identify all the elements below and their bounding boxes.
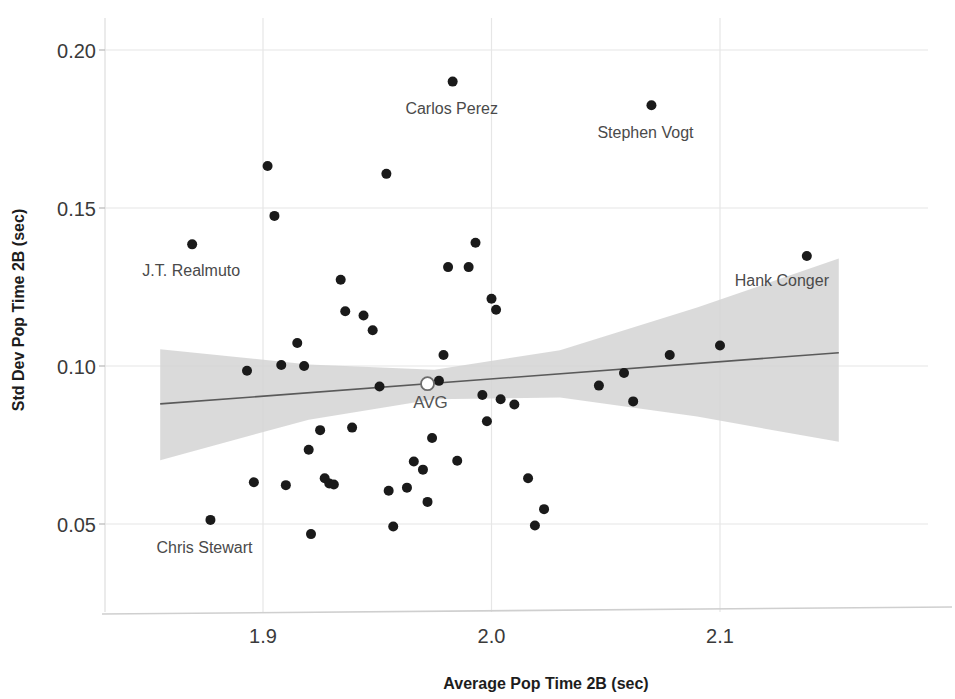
avg-marker-label: AVG xyxy=(413,393,448,412)
x-axis-title: Average Pop Time 2B (sec) xyxy=(443,675,648,692)
data-point xyxy=(539,504,549,514)
data-point xyxy=(347,423,357,433)
y-tick-label: 0.15 xyxy=(57,198,96,220)
player-label: Chris Stewart xyxy=(156,539,253,556)
data-point xyxy=(384,486,394,496)
data-point xyxy=(205,515,215,525)
data-point xyxy=(439,350,449,360)
data-point xyxy=(359,310,369,320)
data-point xyxy=(336,275,346,285)
y-tick-label: 0.05 xyxy=(57,514,96,536)
data-point xyxy=(496,394,506,404)
data-point xyxy=(281,480,291,490)
data-point xyxy=(427,433,437,443)
data-point xyxy=(443,262,453,272)
data-point xyxy=(402,483,412,493)
x-tick-label: 1.9 xyxy=(249,625,277,647)
data-point xyxy=(306,529,316,539)
player-label: Stephen Vogt xyxy=(597,124,694,141)
data-point xyxy=(375,382,385,392)
data-point xyxy=(477,390,487,400)
data-point xyxy=(471,238,481,248)
data-point xyxy=(509,400,519,410)
data-point xyxy=(423,497,433,507)
x-axis: 1.92.02.1 xyxy=(249,625,734,647)
data-point xyxy=(715,340,725,350)
plot-canvas: AVG J.T. RealmutoChris StewartCarlos Per… xyxy=(0,0,955,699)
data-point xyxy=(368,325,378,335)
data-point xyxy=(487,294,497,304)
data-point xyxy=(646,100,656,110)
data-point xyxy=(530,521,540,531)
data-point xyxy=(452,456,462,466)
scatter-chart: AVG J.T. RealmutoChris StewartCarlos Per… xyxy=(0,0,955,699)
data-point xyxy=(329,480,339,490)
data-point xyxy=(523,473,533,483)
data-point xyxy=(304,445,314,455)
player-label: J.T. Realmuto xyxy=(142,262,240,279)
data-point xyxy=(269,211,279,221)
data-point xyxy=(276,360,286,370)
data-point xyxy=(594,381,604,391)
data-point xyxy=(665,350,675,360)
x-tick-label: 2.0 xyxy=(478,625,506,647)
player-label: Carlos Perez xyxy=(405,100,497,117)
data-point xyxy=(491,305,501,315)
data-point xyxy=(418,465,428,475)
data-point xyxy=(464,262,474,272)
data-point xyxy=(381,169,391,179)
data-point xyxy=(448,77,458,87)
x-tick-label: 2.1 xyxy=(706,625,734,647)
y-axis-title: Std Dev Pop Time 2B (sec) xyxy=(10,209,27,411)
data-point xyxy=(299,361,309,371)
data-point xyxy=(482,416,492,426)
y-tick-label: 0.20 xyxy=(57,40,96,62)
y-axis: 0.050.100.150.20 xyxy=(57,40,105,536)
data-point xyxy=(249,477,259,487)
player-label: Hank Conger xyxy=(735,272,830,289)
data-point xyxy=(434,376,444,386)
x-axis-baseline xyxy=(102,607,952,614)
data-point xyxy=(263,161,273,171)
data-point xyxy=(802,251,812,261)
data-point xyxy=(388,522,398,532)
data-point xyxy=(292,338,302,348)
data-point xyxy=(628,396,638,406)
data-point xyxy=(619,368,629,378)
y-tick-label: 0.10 xyxy=(57,356,96,378)
avg-open-circle xyxy=(421,377,434,390)
data-point xyxy=(187,239,197,249)
data-point xyxy=(340,306,350,316)
data-point xyxy=(409,456,419,466)
data-point xyxy=(242,366,252,376)
data-point xyxy=(315,425,325,435)
